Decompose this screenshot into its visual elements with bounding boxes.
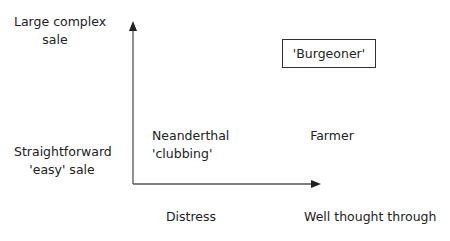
neanderthal-line2: 'clubbing' bbox=[152, 145, 232, 163]
y-axis-low-label: Straightforward 'easy' sale bbox=[14, 143, 110, 179]
x-axis-arrow-icon bbox=[311, 180, 321, 188]
y-low-line1: Straightforward bbox=[14, 143, 110, 161]
y-axis-arrow-icon bbox=[129, 21, 137, 31]
quadrant-burgeoner-label: 'Burgeoner' bbox=[293, 46, 365, 61]
y-high-line1: Large complex bbox=[14, 13, 96, 31]
x-axis-right-label: Well thought through bbox=[304, 208, 434, 226]
y-low-line2: 'easy' sale bbox=[14, 161, 110, 179]
quadrant-neanderthal: Neanderthal 'clubbing' bbox=[152, 127, 232, 163]
quadrant-burgeoner-box: 'Burgeoner' bbox=[282, 39, 376, 68]
y-axis-high-label: Large complex sale bbox=[14, 13, 96, 49]
neanderthal-line1: Neanderthal bbox=[152, 127, 232, 145]
quadrant-farmer: Farmer bbox=[307, 127, 357, 145]
x-axis-left-label: Distress bbox=[163, 208, 219, 226]
y-high-line2: sale bbox=[14, 31, 96, 49]
